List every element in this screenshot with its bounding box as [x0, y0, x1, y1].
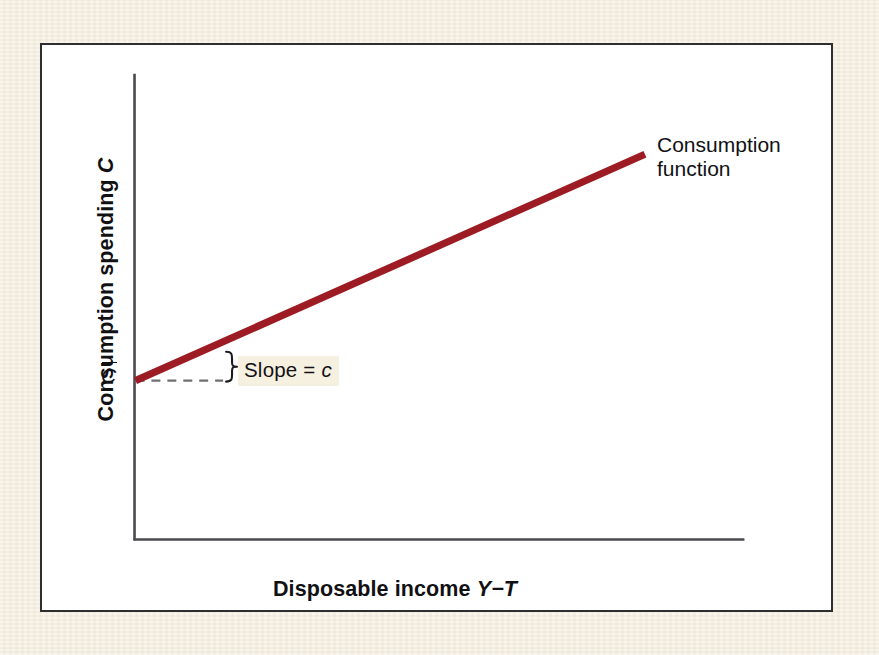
x-axis-label-symbol: Y−T — [477, 577, 517, 601]
intercept-label-text: C — [101, 365, 116, 386]
x-axis-label: Disposable income Y−T — [42, 577, 748, 602]
slope-annotation: Slope = c — [238, 356, 339, 386]
plot-canvas — [42, 45, 831, 610]
slope-annotation-symbol: c — [321, 358, 331, 381]
x-axis-label-text: Disposable income — [273, 577, 477, 601]
curve-label-line2: function — [657, 157, 731, 180]
intercept-label-cbar: C — [101, 365, 116, 386]
figure-root: Consumption spending C Disposable income… — [0, 0, 879, 655]
consumption-function-line — [136, 154, 645, 380]
y-axis-label: Consumption spending C — [94, 140, 119, 440]
curve-label-line1: Consumption — [657, 133, 781, 156]
curve-label-consumption-function: Consumptionfunction — [657, 133, 781, 181]
y-axis-label-symbol: C — [94, 158, 118, 174]
slope-brace — [226, 352, 237, 382]
chart-panel: Consumption spending C Disposable income… — [40, 43, 833, 612]
slope-annotation-text: Slope = — [244, 358, 321, 381]
